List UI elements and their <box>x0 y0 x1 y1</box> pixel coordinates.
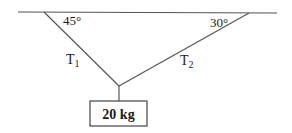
t2-subscript: 2 <box>189 59 194 70</box>
angle-right-label: 30° <box>210 15 228 30</box>
tension-diagram: 45° 30° T1 T2 20 kg <box>0 0 292 133</box>
rope-t2 <box>119 13 249 86</box>
ceiling-line <box>18 12 277 13</box>
tension-t2-label: T2 <box>180 53 194 70</box>
tension-t1-label: T1 <box>66 52 80 69</box>
rope-t1 <box>44 12 119 86</box>
mass-label: 20 kg <box>102 107 134 122</box>
angle-left-label: 45° <box>63 13 81 28</box>
t1-subscript: 1 <box>75 58 80 69</box>
